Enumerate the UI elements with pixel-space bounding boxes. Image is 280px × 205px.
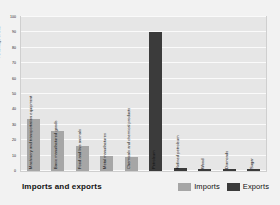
bar-slot[interactable]: Machinery and transportation equipment	[27, 17, 40, 171]
chart-caption: Imports and exports	[22, 182, 102, 191]
bar-slot[interactable]: Sugar	[247, 17, 260, 171]
legend-entry[interactable]: Imports	[178, 182, 220, 191]
bar[interactable]	[198, 169, 211, 171]
y-axis-tick-label: 10	[12, 154, 16, 158]
bar-category-label: Chemicals and chemical products	[127, 108, 131, 169]
bar-slot[interactable]: Metal manufactures	[100, 17, 113, 171]
y-axis-label: Percentage of total	[0, 0, 1, 58]
bar-category-label: Refined petroleum	[176, 135, 180, 169]
bar-category-label: Basic manufactured goods	[54, 120, 58, 169]
bar-slot[interactable]: Chemicals and chemical products	[125, 17, 138, 171]
chart-figure: 0102030405060708090100 Percentage of tot…	[0, 0, 280, 205]
bar-slot[interactable]: Petroleum	[149, 17, 162, 171]
bar-category-label: Petroleum	[152, 150, 156, 169]
y-axis-tick-label: 70	[12, 61, 16, 65]
bar-group: Machinery and transportation equipmentBa…	[21, 17, 266, 171]
legend-label: Exports	[243, 182, 269, 191]
y-axis-tick-label: 90	[12, 30, 16, 34]
legend-swatch-icon	[178, 183, 191, 191]
bar-category-label: Diamonds	[225, 151, 229, 169]
bar-slot[interactable]: Wood	[198, 17, 211, 171]
legend-label: Imports	[194, 182, 220, 191]
y-axis-tick-label: 20	[12, 138, 16, 142]
y-axis-tick-label: 30	[12, 123, 16, 127]
bar-slot[interactable]: Diamonds	[223, 17, 236, 171]
bar-category-label: Sugar	[250, 158, 254, 169]
y-axis-tick-label: 40	[12, 107, 16, 111]
bar-category-label: Metal manufactures	[103, 133, 107, 169]
bar[interactable]	[247, 169, 260, 171]
bar-category-label: Machinery and transportation equipment	[29, 96, 33, 170]
y-axis-tick-label: 0	[14, 169, 16, 173]
bar-category-label: Food and live animals	[78, 129, 82, 169]
bar-slot[interactable]: Basic manufactured goods	[51, 17, 64, 171]
legend-entry[interactable]: Exports	[227, 182, 269, 191]
y-axis-ticks: 0102030405060708090100	[0, 16, 18, 172]
bar-category-label: Wood	[201, 158, 205, 169]
y-axis-tick-label: 60	[12, 77, 16, 81]
chart-legend: ImportsExports	[178, 182, 269, 191]
y-axis-tick-label: 100	[10, 15, 16, 19]
bar-slot[interactable]: Food and live animals	[76, 17, 89, 171]
bar-slot[interactable]: Refined petroleum	[174, 17, 187, 171]
legend-swatch-icon	[227, 183, 240, 191]
bar[interactable]	[223, 169, 236, 171]
y-axis-tick-label: 50	[12, 92, 16, 96]
y-axis-tick-label: 80	[12, 46, 16, 50]
